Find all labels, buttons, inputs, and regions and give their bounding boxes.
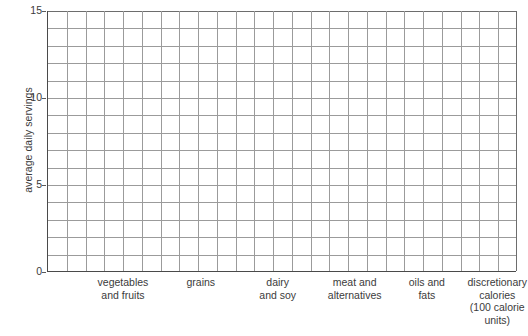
gridline-horizontal — [48, 220, 516, 221]
gridline-vertical — [123, 11, 124, 271]
gridline-vertical — [292, 11, 293, 271]
horizontal-gridlines — [48, 11, 516, 271]
gridline-vertical — [311, 11, 312, 271]
vertical-gridlines — [48, 11, 516, 271]
gridline-vertical — [217, 11, 218, 271]
gridline-vertical — [254, 11, 255, 271]
gridline-vertical — [479, 11, 480, 271]
gridline-vertical — [516, 11, 517, 271]
x-axis-category-label-line: discretionary — [437, 276, 528, 289]
gridline-vertical — [236, 11, 237, 271]
y-axis-tick-mark — [42, 98, 46, 99]
y-axis-tick-label: 10 — [18, 92, 42, 103]
gridline-horizontal — [48, 98, 516, 99]
gridline-horizontal — [48, 255, 516, 256]
gridline-vertical — [461, 11, 462, 271]
gridline-horizontal — [48, 11, 516, 12]
gridline-vertical — [442, 11, 443, 271]
x-axis-category-label: discretionarycalories(100 calorieunits) — [437, 276, 528, 326]
gridline-horizontal — [48, 115, 516, 116]
gridline-vertical — [179, 11, 180, 271]
gridline-vertical — [161, 11, 162, 271]
gridline-horizontal — [48, 150, 516, 151]
x-axis-category-label-line: units) — [437, 314, 528, 327]
plot-area — [47, 11, 516, 272]
gridline-vertical — [498, 11, 499, 271]
gridline-vertical — [423, 11, 424, 271]
gridline-horizontal — [48, 185, 516, 186]
gridline-horizontal — [48, 133, 516, 134]
y-axis-tick-mark — [42, 185, 46, 186]
y-axis-ticks: 151050 — [16, 0, 42, 336]
gridline-horizontal — [48, 81, 516, 82]
x-axis-category-labels: vegetablesand fruitsgrainsdairyand soyme… — [47, 276, 516, 334]
gridline-vertical — [198, 11, 199, 271]
gridline-vertical — [329, 11, 330, 271]
gridline-horizontal — [48, 63, 516, 64]
gridline-vertical — [86, 11, 87, 271]
gridline-vertical — [142, 11, 143, 271]
gridline-vertical — [67, 11, 68, 271]
chart-figure: average daily servings 151050 vegetables… — [0, 0, 528, 336]
x-axis-category-label-line: and fruits — [63, 289, 183, 302]
y-axis-tick-label: 0 — [18, 266, 42, 277]
gridline-vertical — [348, 11, 349, 271]
y-axis-tick-mark — [42, 11, 46, 12]
x-axis-category-label-line: calories — [437, 289, 528, 302]
y-axis-tick-label: 15 — [18, 5, 42, 16]
y-axis-tick-mark — [42, 272, 46, 273]
gridline-vertical — [104, 11, 105, 271]
gridline-horizontal — [48, 237, 516, 238]
y-axis-tick-label: 5 — [18, 179, 42, 190]
gridline-vertical — [367, 11, 368, 271]
gridline-horizontal — [48, 202, 516, 203]
x-axis-category-label-line: (100 calorie — [437, 301, 528, 314]
gridline-vertical — [386, 11, 387, 271]
gridline-horizontal — [48, 168, 516, 169]
gridline-vertical — [404, 11, 405, 271]
gridline-horizontal — [48, 46, 516, 47]
gridline-horizontal — [48, 28, 516, 29]
gridline-vertical — [273, 11, 274, 271]
